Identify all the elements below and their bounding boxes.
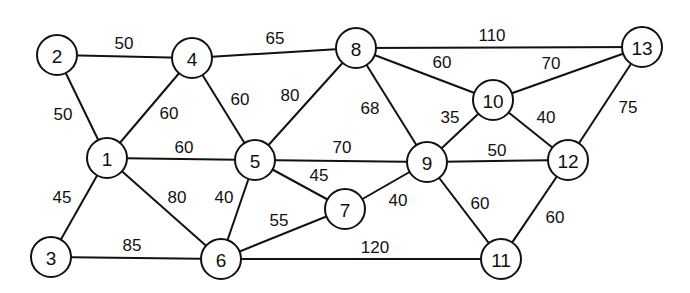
edge-3-6 xyxy=(51,257,221,259)
node-10: 10 xyxy=(473,80,513,120)
node-13: 13 xyxy=(622,27,662,67)
node-3: 3 xyxy=(31,237,71,277)
edge-weight-label: 45 xyxy=(53,188,72,207)
node-6: 6 xyxy=(201,239,241,279)
edge-10-13 xyxy=(493,47,642,100)
edge-weight-label: 50 xyxy=(54,105,73,124)
edge-1-5 xyxy=(107,158,255,160)
node-label: 7 xyxy=(340,200,351,221)
node-label: 5 xyxy=(250,151,261,172)
node-9: 9 xyxy=(407,142,447,182)
edge-weight-label: 60 xyxy=(175,138,194,157)
edge-weight-label: 80 xyxy=(168,188,187,207)
edge-weight-label: 110 xyxy=(478,26,505,45)
node-label: 4 xyxy=(187,49,198,70)
edge-weight-label: 60 xyxy=(546,208,565,227)
edge-5-9 xyxy=(255,160,427,162)
node-label: 3 xyxy=(46,248,57,269)
edge-weight-label: 60 xyxy=(471,194,490,213)
edge-4-8 xyxy=(192,48,356,58)
node-label: 10 xyxy=(482,91,503,112)
edge-weight-label: 75 xyxy=(619,98,638,117)
edge-8-10 xyxy=(356,48,493,100)
edge-weight-label: 50 xyxy=(488,141,507,160)
node-label: 12 xyxy=(557,151,578,172)
edge-weight-label: 35 xyxy=(441,108,460,127)
node-7: 7 xyxy=(325,189,365,229)
edge-9-12 xyxy=(427,160,568,162)
edge-weight-label: 40 xyxy=(215,188,234,207)
node-label: 2 xyxy=(52,46,63,67)
edge-weight-label: 60 xyxy=(160,104,179,123)
edge-weight-label: 55 xyxy=(270,211,289,230)
node-5: 5 xyxy=(235,140,275,180)
node-label: 9 xyxy=(422,153,433,174)
edge-weight-label: 40 xyxy=(537,108,556,127)
edge-weight-label: 50 xyxy=(115,34,134,53)
graph-diagram: 5065110506060806070683540756070504545804… xyxy=(0,0,690,293)
node-4: 4 xyxy=(172,38,212,78)
edge-weight-label: 40 xyxy=(389,191,408,210)
edge-weight-label: 60 xyxy=(433,53,452,72)
edge-weight-label: 45 xyxy=(310,166,329,185)
edge-weight-label: 80 xyxy=(281,86,300,105)
edge-weight-label: 70 xyxy=(542,54,561,73)
node-12: 12 xyxy=(548,140,588,180)
node-label: 6 xyxy=(216,250,227,271)
edge-weight-label: 120 xyxy=(361,238,389,257)
node-2: 2 xyxy=(37,35,77,75)
edge-weight-label: 68 xyxy=(361,99,380,118)
node-label: 8 xyxy=(351,39,362,60)
node-label: 1 xyxy=(102,149,113,170)
node-1: 1 xyxy=(87,138,127,178)
edge-weight-label: 85 xyxy=(123,236,142,255)
edge-weight-label: 65 xyxy=(266,29,285,48)
edge-weight-label: 60 xyxy=(231,90,250,109)
edge-8-13 xyxy=(356,47,642,48)
edge-weight-label: 70 xyxy=(333,138,352,157)
node-11: 11 xyxy=(481,239,521,279)
node-8: 8 xyxy=(336,28,376,68)
node-label: 11 xyxy=(491,250,511,271)
node-label: 13 xyxy=(631,38,652,59)
